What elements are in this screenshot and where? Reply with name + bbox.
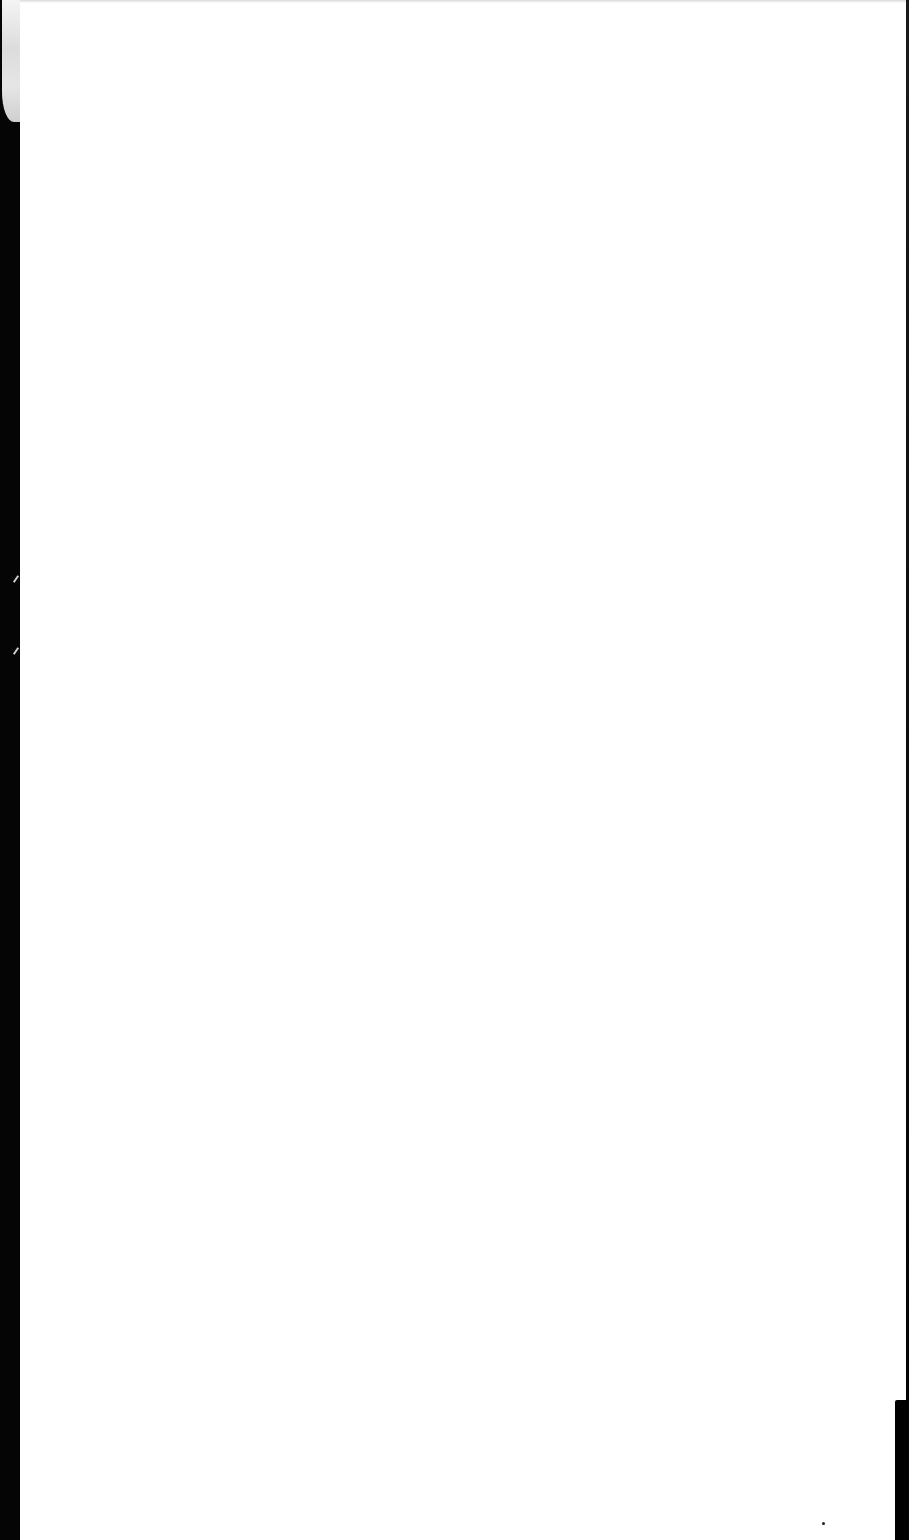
torn-paper-edge xyxy=(2,0,20,122)
left-scanner-border xyxy=(0,0,20,1540)
blank-page-area xyxy=(20,3,906,1540)
top-edge-shadow xyxy=(20,0,906,3)
paper-fiber-mark xyxy=(13,647,19,655)
right-scanner-border-bottom xyxy=(895,1400,909,1540)
paper-fiber-mark xyxy=(13,575,19,583)
scanned-page xyxy=(0,0,909,1540)
dust-speck xyxy=(822,1522,825,1525)
page-text xyxy=(20,3,21,4)
